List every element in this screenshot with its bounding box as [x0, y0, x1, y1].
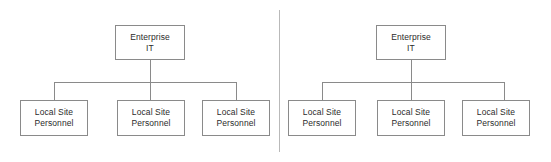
connector-drop-2-right: [411, 82, 412, 100]
node-label-line1: Local Site: [132, 107, 170, 118]
node-local-site-personnel-right-3[interactable]: Local Site Personnel: [462, 100, 530, 136]
node-label-line1: Local Site: [392, 107, 430, 118]
node-local-site-personnel-left-1[interactable]: Local Site Personnel: [20, 100, 88, 136]
node-label-line2: Personnel: [391, 118, 430, 129]
connector-horizontal-bus-left: [54, 82, 236, 83]
node-label-line2: IT: [146, 43, 154, 54]
connector-drop-3-left: [236, 82, 237, 100]
node-label-line2: Personnel: [34, 118, 73, 129]
diagram-canvas: Enterprise IT Local Site Personnel Local…: [0, 0, 551, 162]
node-local-site-personnel-left-2[interactable]: Local Site Personnel: [117, 100, 185, 136]
connector-drop-2-left: [150, 82, 151, 100]
connector-drop-3-right: [504, 82, 505, 100]
node-label-line1: Local Site: [35, 107, 73, 118]
panel-divider: [279, 10, 280, 152]
node-label-line1: Local Site: [303, 107, 341, 118]
node-label-line2: Personnel: [131, 118, 170, 129]
node-local-site-personnel-right-2[interactable]: Local Site Personnel: [377, 100, 445, 136]
node-label-line1: Local Site: [217, 107, 255, 118]
node-enterprise-it-left[interactable]: Enterprise IT: [115, 25, 185, 60]
node-local-site-personnel-right-1[interactable]: Local Site Personnel: [288, 100, 356, 136]
node-label-line2: Personnel: [476, 118, 515, 129]
connector-root-stem-right: [411, 60, 412, 82]
node-label-line2: Personnel: [216, 118, 255, 129]
left-panel: Enterprise IT Local Site Personnel Local…: [0, 0, 276, 162]
right-panel: Enterprise IT Local Site Personnel Local…: [276, 0, 551, 162]
node-label-line1: Local Site: [477, 107, 515, 118]
node-label-line1: Enterprise: [391, 32, 431, 43]
connector-horizontal-bus-right: [322, 82, 504, 83]
node-enterprise-it-right[interactable]: Enterprise IT: [376, 25, 446, 60]
node-label-line1: Enterprise: [130, 32, 170, 43]
node-label-line2: Personnel: [302, 118, 341, 129]
node-label-line2: IT: [407, 43, 415, 54]
connector-root-stem-left: [150, 60, 151, 82]
connector-drop-1-right: [322, 82, 323, 100]
connector-drop-1-left: [54, 82, 55, 100]
node-local-site-personnel-left-3[interactable]: Local Site Personnel: [202, 100, 270, 136]
